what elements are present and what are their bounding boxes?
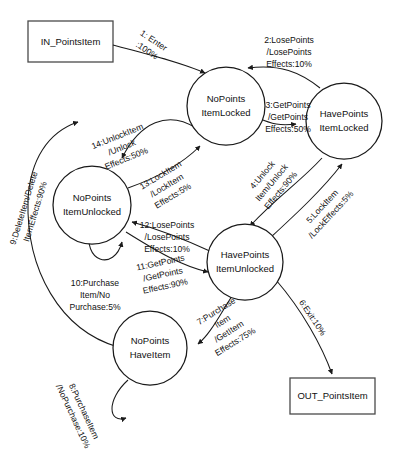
edge-label-2: 2:LosePoints /LosePoints Effects:10%: [264, 35, 314, 69]
edge-label-line3: Effects:10%: [266, 59, 312, 69]
state-label-line2: ItemUnlocked: [63, 206, 121, 217]
state-have-points-item-locked[interactable]: HavePoints ItemLocked: [306, 83, 382, 159]
state-label-line1: HavePoints: [320, 108, 369, 119]
terminal-out-label: OUT_PointsItem: [297, 390, 367, 401]
state-label-line1: HavePoints: [221, 249, 270, 260]
edge-label-10: 10:Purchase Item/No Purchase:5%: [69, 278, 120, 312]
edge-label-line3: Purchase:5%: [69, 302, 120, 312]
state-machine-diagram: IN_PointsItem OUT_PointsItem: [0, 0, 395, 453]
edge-label-line1: 3:GetPoints: [266, 100, 311, 110]
state-no-points-item-unlocked[interactable]: NoPoints ItemUnlocked: [53, 166, 131, 244]
edge-label-line2: /LosePoints: [145, 232, 190, 242]
edge-label-3: 3:GetPoints /GetPoints Effects:50%: [265, 100, 311, 134]
state-no-points-have-item[interactable]: NoPoints HaveItem: [113, 311, 187, 385]
edge-label-7: 7:Purchase Item /GetItem Effects:75%: [194, 295, 257, 358]
terminal-in-label: IN_PointsItem: [41, 36, 101, 47]
state-have-points-item-unlocked[interactable]: HavePoints ItemUnlocked: [207, 224, 283, 300]
state-label-line2: ItemUnlocked: [216, 263, 274, 274]
edge-label-line2: /LosePoints: [267, 47, 312, 57]
edge-label-line1: 12:LosePoints: [140, 220, 194, 230]
state-no-points-item-locked[interactable]: NoPoints ItemLocked: [187, 67, 265, 145]
edge-label-1: 1: Enter :100%: [132, 28, 169, 63]
edge-8-purchaseitem-nopurchase: [112, 380, 128, 419]
edge-label-9: 9:DeleteItem/Delete ItemEffects:90%: [8, 170, 51, 249]
edge-label-line1: 10:Purchase: [71, 278, 119, 288]
edge-label-13: 13:LockItem /LockItem Effects:5%: [138, 159, 196, 212]
state-label-line1: NoPoints: [207, 93, 246, 104]
state-label-line2: ItemLocked: [319, 122, 368, 133]
terminal-in-pointsitem: IN_PointsItem: [28, 21, 113, 62]
state-label-line2: HaveItem: [130, 349, 171, 360]
state-label-line1: NoPoints: [131, 335, 170, 346]
state-label-line1: NoPoints: [73, 192, 112, 203]
edge-label-8: 8:PurchaseItem /NoPurchase:10%: [54, 378, 103, 450]
edge-label-line2: Item/No: [80, 290, 110, 300]
diagram-canvas: IN_PointsItem OUT_PointsItem: [0, 0, 395, 453]
edge-label-line1: 2:LosePoints: [264, 35, 314, 45]
edge-label-line3: Effects:10%: [144, 244, 190, 254]
terminal-out-pointsitem: OUT_PointsItem: [290, 378, 375, 414]
edge-label-5: 5:LockItem /LockEffects:5%: [297, 180, 355, 240]
state-label-line2: ItemLocked: [201, 107, 250, 118]
edge-label-line3: Effects:50%: [265, 124, 311, 134]
edge-label-line2: /GetPoints: [268, 112, 308, 122]
edge-label-11: 11:GetPoints /GetPoints Effects:90%: [135, 253, 190, 296]
edge-label-12: 12:LosePoints /LosePoints Effects:10%: [140, 220, 194, 254]
edge-label-4: 4:Unlock Item/Unlock Effects:90%: [244, 154, 300, 211]
